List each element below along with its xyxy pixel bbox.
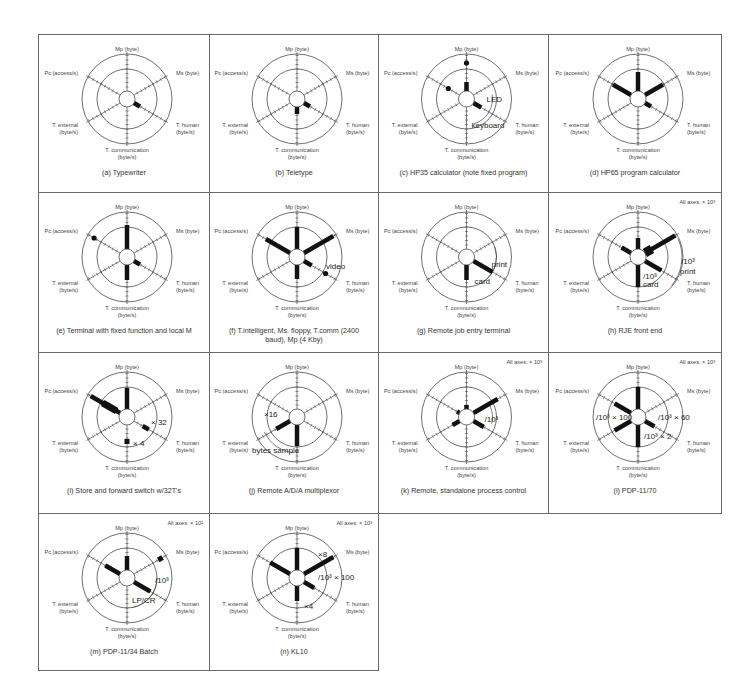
axis-label-t-external: T. external bbox=[392, 280, 418, 286]
axis-label-t-human-unit: (byte/s) bbox=[516, 447, 535, 453]
axis-label-t-human-unit: (byte/s) bbox=[687, 287, 706, 293]
axis-label-t-communication: T. communication bbox=[275, 305, 319, 311]
panel-caption: (h) RJE front end bbox=[549, 326, 721, 335]
axis-label-t-human-unit: (byte/s) bbox=[346, 447, 365, 453]
bar-t_human bbox=[134, 261, 140, 265]
annotation: × 32 bbox=[151, 418, 167, 427]
annotation: /10³ bbox=[485, 415, 499, 424]
axis-label-ms: Ms (byte) bbox=[176, 70, 199, 76]
bar-ms bbox=[304, 557, 333, 574]
axis-label-pc: Pc (access/s) bbox=[214, 228, 248, 234]
bar-pc bbox=[622, 248, 632, 254]
axis-label-t-communication-unit: (byte/s) bbox=[118, 633, 137, 639]
bar-t_human bbox=[645, 103, 651, 107]
bar-ms bbox=[304, 236, 333, 253]
axis-label-t-external: T. external bbox=[222, 280, 248, 286]
axis-label-t-communication-unit: (byte/s) bbox=[288, 633, 307, 639]
axis-label-mp: Mp (byte) bbox=[455, 46, 479, 52]
axis-label-pc: Pc (access/s) bbox=[555, 388, 589, 394]
annotation: /10³ bbox=[155, 576, 169, 585]
axis-label-t-external-unit: (byte/s) bbox=[229, 129, 248, 135]
axis-label-ms: Ms (byte) bbox=[176, 549, 199, 555]
axis-label-t-external: T. external bbox=[222, 601, 248, 607]
axis-label-t-communication-unit: (byte/s) bbox=[288, 312, 307, 318]
annotation: ×4 bbox=[304, 602, 314, 611]
axis-label-t-human: T. human bbox=[346, 440, 369, 446]
annotation: /10³ × 2 bbox=[644, 432, 672, 441]
axis-label-t-external-unit: (byte/s) bbox=[59, 447, 78, 453]
axis-label-t-human-unit: (byte/s) bbox=[346, 129, 365, 135]
axis-label-t-human: T. human bbox=[687, 440, 710, 446]
kiviat-panel-a: Mp (byte)Ms (byte)Pc (access/s)T. extern… bbox=[38, 34, 210, 193]
bar-t_human bbox=[473, 421, 483, 427]
axis-label-t-human: T. human bbox=[516, 122, 539, 128]
axis-label-ms: Ms (byte) bbox=[687, 388, 710, 394]
bar-t_human bbox=[304, 582, 314, 588]
bar-pc bbox=[103, 403, 117, 411]
axis-label-pc: Pc (access/s) bbox=[555, 228, 589, 234]
annotation: card bbox=[643, 280, 659, 289]
axis-label-t-human-unit: (byte/s) bbox=[687, 129, 706, 135]
kiviat-panel-i: Mp (byte)Ms (byte)Pc (access/s)T. extern… bbox=[38, 352, 210, 514]
axis-label-t-communication: T. communication bbox=[105, 626, 149, 632]
axis-label-t-external: T. external bbox=[392, 440, 418, 446]
axis-label-pc: Pc (access/s) bbox=[384, 388, 418, 394]
annotation: bytes sample bbox=[252, 446, 300, 455]
axis-label-t-external-unit: (byte/s) bbox=[59, 129, 78, 135]
kiviat-panel-g: Mp (byte)Ms (byte)Pc (access/s)T. extern… bbox=[378, 192, 549, 353]
scale-note: All axes: × 10³ bbox=[679, 359, 715, 365]
bar-t_external bbox=[453, 421, 460, 425]
axis-label-t-external-unit: (byte/s) bbox=[399, 287, 418, 293]
bar-ms bbox=[645, 85, 663, 96]
axis-label-mp: Mp (byte) bbox=[285, 364, 309, 370]
axis-label-ms: Ms (byte) bbox=[687, 228, 710, 234]
axis-label-mp: Mp (byte) bbox=[455, 364, 479, 370]
axis-label-t-human: T. human bbox=[346, 280, 369, 286]
axis-label-t-communication-unit: (byte/s) bbox=[118, 154, 137, 160]
axis-label-t-human: T. human bbox=[346, 122, 369, 128]
panel-caption: (l) PDP-11/70 bbox=[549, 486, 721, 495]
axis-label-t-human-unit: (byte/s) bbox=[176, 608, 195, 614]
axis-label-ms: Ms (byte) bbox=[346, 549, 369, 555]
kiviat-panel-n: Mp (byte)Ms (byte)Pc (access/s)T. extern… bbox=[209, 513, 379, 671]
axis-label-t-communication: T. communication bbox=[105, 305, 149, 311]
kiviat-panel-h: Mp (byte)Ms (byte)Pc (access/s)T. extern… bbox=[548, 192, 722, 353]
axis-label-pc: Pc (access/s) bbox=[214, 70, 248, 76]
axis-label-t-human: T. human bbox=[687, 122, 710, 128]
bar-t_external bbox=[615, 421, 631, 431]
axis-label-pc: Pc (access/s) bbox=[214, 388, 248, 394]
kiviat-panel-c: Mp (byte)Ms (byte)Pc (access/s)T. extern… bbox=[378, 34, 549, 193]
axis-label-t-human: T. human bbox=[516, 280, 539, 286]
axis-label-mp: Mp (byte) bbox=[285, 525, 309, 531]
bar-pc bbox=[615, 404, 631, 414]
axis-label-t-communication-unit: (byte/s) bbox=[457, 154, 476, 160]
annotation: × 4 bbox=[133, 439, 145, 448]
axis-label-t-external-unit: (byte/s) bbox=[570, 447, 589, 453]
kiviat-panel-k: Mp (byte)Ms (byte)Pc (access/s)T. extern… bbox=[378, 352, 549, 514]
axis-label-t-communication: T. communication bbox=[445, 147, 489, 153]
axis-label-t-communication-unit: (byte/s) bbox=[118, 472, 137, 478]
bar-t_external bbox=[276, 421, 290, 429]
axis-label-t-communication-unit: (byte/s) bbox=[629, 312, 648, 318]
kiviat-panel-j: Mp (byte)Ms (byte)Pc (access/s)T. extern… bbox=[209, 352, 379, 514]
axis-label-t-external-unit: (byte/s) bbox=[229, 608, 248, 614]
dot-marker-mp bbox=[464, 60, 469, 65]
axis-label-t-human: T. human bbox=[176, 601, 199, 607]
bar-t_human bbox=[645, 421, 655, 427]
axis-label-ms: Ms (byte) bbox=[176, 388, 199, 394]
axis-label-pc: Pc (access/s) bbox=[44, 70, 78, 76]
dot-marker-pc bbox=[91, 235, 96, 240]
bar-t_human bbox=[304, 103, 310, 107]
annotation: /10³ × 60 bbox=[658, 413, 690, 422]
scale-note: All axes: × 10³ bbox=[506, 359, 542, 365]
axis-label-t-communication-unit: (byte/s) bbox=[457, 472, 476, 478]
axis-label-t-communication-unit: (byte/s) bbox=[457, 312, 476, 318]
axis-label-t-external-unit: (byte/s) bbox=[229, 287, 248, 293]
kiviat-panel-b: Mp (byte)Ms (byte)Pc (access/s)T. extern… bbox=[209, 34, 379, 193]
panel-caption: (j) Remote A/D/A multiplexor bbox=[210, 486, 378, 495]
kiviat-panel-m: Mp (byte)Ms (byte)Pc (access/s)T. extern… bbox=[38, 513, 210, 671]
scale-note: All axes: × 10³ bbox=[679, 199, 715, 205]
axis-label-t-external-unit: (byte/s) bbox=[570, 129, 589, 135]
axis-label-t-human-unit: (byte/s) bbox=[176, 287, 195, 293]
bar-t_human bbox=[134, 582, 150, 592]
